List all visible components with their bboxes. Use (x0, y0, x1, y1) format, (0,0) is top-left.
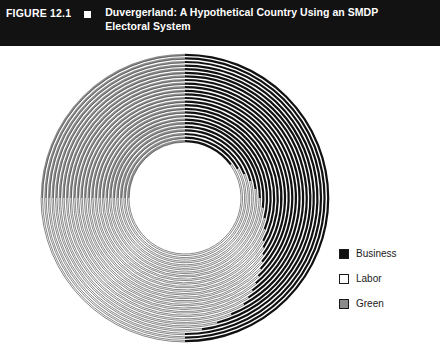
ring-segment (117, 181, 252, 265)
ring-segment-outline (125, 169, 244, 257)
ring-segment-outline (129, 165, 241, 254)
legend-label-business: Business (356, 248, 397, 259)
ring-segment (128, 165, 242, 255)
figure-page: FIGURE 12.1 Duvergerland: A Hypothetical… (0, 0, 440, 357)
figure-title: Duvergerland: A Hypothetical Country Usi… (105, 6, 405, 34)
ring-segment-outline (122, 135, 185, 198)
figure-number-label: FIGURE 12.1 (6, 6, 71, 19)
legend-label-green: Green (356, 298, 384, 309)
ring-segment (45, 198, 185, 338)
legend-label-labor: Labor (356, 273, 382, 284)
chart-area: Business Labor Green (0, 46, 440, 357)
legend-swatch-labor (339, 274, 349, 284)
ring-segment-outline (117, 181, 254, 266)
figure-header: FIGURE 12.1 Duvergerland: A Hypothetical… (0, 0, 440, 46)
legend-swatch-business (339, 249, 349, 259)
rings-group (41, 55, 328, 342)
ring-segment-outline (115, 189, 256, 268)
legend-swatch-green (339, 299, 349, 309)
legend-item-green: Green (339, 291, 431, 316)
legend-item-business: Business (339, 241, 431, 266)
ring-segment (45, 58, 185, 198)
chart-legend: Business Labor Green (339, 241, 431, 316)
legend-item-labor: Labor (339, 266, 431, 291)
concentric-ring-chart (32, 48, 337, 353)
square-marker-icon (84, 11, 91, 18)
